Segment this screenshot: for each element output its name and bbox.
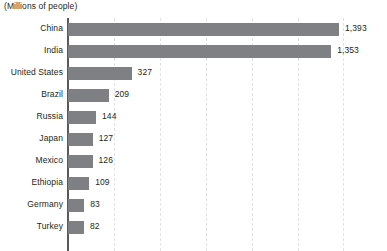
bar-value-label: 1,393	[345, 22, 367, 35]
bar	[68, 23, 339, 36]
bar	[68, 67, 132, 80]
category-label: India	[44, 44, 63, 57]
bar-chart: (Millions of people) China1,393India1,35…	[0, 0, 387, 251]
category-label: China	[40, 22, 63, 35]
bar	[68, 199, 84, 212]
bar-row: Mexico126	[68, 150, 387, 172]
chart-title: (Millions of people)	[4, 1, 77, 12]
bar-value-label: 83	[90, 198, 100, 211]
category-label: Brazil	[41, 88, 63, 101]
bar	[68, 133, 93, 146]
bar-value-label: 126	[99, 154, 113, 167]
bar-row: Japan127	[68, 128, 387, 150]
bar	[68, 45, 331, 58]
bar-value-label: 109	[95, 176, 109, 189]
bar-rows: China1,393India1,353United States327Braz…	[68, 18, 387, 238]
bar-value-label: 144	[102, 110, 116, 123]
bar	[68, 111, 96, 124]
bar-row: Germany83	[68, 194, 387, 216]
bar-value-label: 209	[115, 88, 129, 101]
category-label: Mexico	[35, 154, 63, 167]
bar-row: India1,353	[68, 40, 387, 62]
category-label: United States	[11, 66, 63, 79]
bar-value-label: 1,353	[337, 44, 359, 57]
bar-value-label: 327	[138, 66, 152, 79]
category-label: Japan	[39, 132, 63, 145]
bar-row: Turkey82	[68, 216, 387, 238]
bar-value-label: 82	[90, 220, 100, 233]
bar	[68, 155, 93, 168]
bar-row: China1,393	[68, 18, 387, 40]
bar-row: United States327	[68, 62, 387, 84]
category-label: Ethiopia	[31, 176, 63, 189]
category-label: Turkey	[37, 220, 63, 233]
category-label: Germany	[27, 198, 63, 211]
category-label: Russia	[36, 110, 63, 123]
bar-row: Russia144	[68, 106, 387, 128]
bar	[68, 89, 109, 102]
bar-value-label: 127	[99, 132, 113, 145]
bar	[68, 221, 84, 234]
bar-row: Brazil209	[68, 84, 387, 106]
bar-row: Ethiopia109	[68, 172, 387, 194]
plot-area: China1,393India1,353United States327Braz…	[68, 18, 387, 251]
bar	[68, 177, 89, 190]
